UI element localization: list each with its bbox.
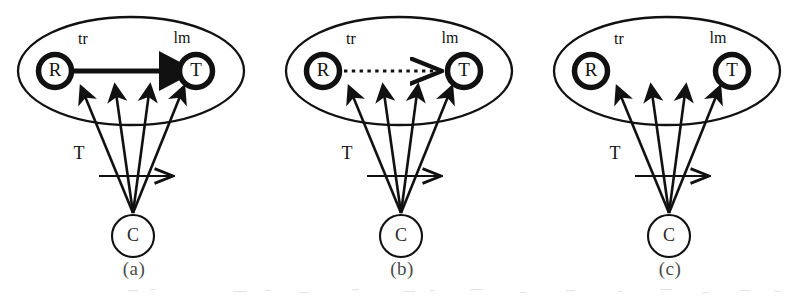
panel-b-caption: (b): [268, 258, 536, 280]
panel-a-diagram: T R tr T lm C: [0, 0, 268, 302]
panel-b: T R tr T lm C (b): [268, 0, 536, 302]
node-r-top-label: tr: [346, 30, 356, 47]
panel-a: T R tr T lm C (a): [0, 0, 268, 302]
node-t-top-label: lm: [174, 29, 191, 46]
node-r-label: R: [49, 59, 62, 80]
node-t-label: T: [726, 59, 738, 80]
node-t-label: T: [190, 59, 202, 80]
node-r-top-label: tr: [78, 30, 88, 47]
node-c-label: C: [663, 225, 675, 245]
node-c-label: C: [127, 225, 139, 245]
node-r-label: R: [317, 59, 330, 80]
figure-root: T R tr T lm C (a): [0, 0, 804, 302]
panel-a-caption: (a): [0, 258, 268, 280]
panel-c-caption: (c): [536, 258, 804, 280]
node-r-label: R: [585, 59, 598, 80]
flow-label: T: [610, 143, 621, 163]
panel-c: T R tr T lm C (c): [536, 0, 804, 302]
panel-c-diagram: T R tr T lm C: [536, 0, 804, 302]
node-t-top-label: lm: [710, 29, 727, 46]
node-t-top-label: lm: [442, 29, 459, 46]
node-c-label: C: [395, 225, 407, 245]
node-t-label: T: [458, 59, 470, 80]
node-r-top-label: tr: [614, 30, 624, 47]
flow-label: T: [342, 143, 353, 163]
flow-label: T: [74, 143, 85, 163]
panel-b-diagram: T R tr T lm C: [268, 0, 536, 302]
